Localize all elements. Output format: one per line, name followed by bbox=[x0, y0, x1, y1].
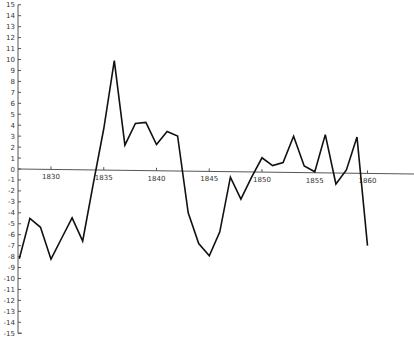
x-tick-label: 1840 bbox=[148, 175, 166, 183]
x-tick-label: 1830 bbox=[42, 173, 60, 181]
y-tick-label: -14 bbox=[4, 319, 16, 327]
y-tick-label: -1 bbox=[8, 176, 15, 184]
line-chart: 1514131211109876543210-1-2-3-4-5-6-7-8-9… bbox=[0, 0, 414, 338]
y-tick-label: 6 bbox=[11, 100, 16, 108]
y-tick-label: 14 bbox=[6, 12, 15, 20]
y-tick-label: -5 bbox=[8, 220, 15, 228]
y-tick-label: -12 bbox=[4, 297, 15, 305]
y-tick-label: -10 bbox=[4, 275, 15, 283]
x-axis: 1830183518401845185018551860 bbox=[18, 166, 414, 185]
y-tick-label: 11 bbox=[6, 45, 15, 53]
y-tick-label: -8 bbox=[8, 253, 15, 261]
y-tick-label: 4 bbox=[11, 122, 16, 130]
y-tick-label: 7 bbox=[11, 89, 15, 97]
y-tick-label: 9 bbox=[11, 67, 15, 75]
y-tick-label: -4 bbox=[8, 209, 16, 217]
y-tick-label: 13 bbox=[6, 23, 15, 31]
y-tick-label: -15 bbox=[4, 330, 15, 338]
y-tick-label: 12 bbox=[6, 34, 15, 42]
y-tick-label: 0 bbox=[11, 166, 15, 174]
x-tick-label: 1845 bbox=[200, 175, 218, 183]
y-tick-label: 15 bbox=[6, 1, 15, 9]
series-line bbox=[19, 61, 367, 260]
data-series bbox=[19, 61, 367, 260]
y-tick-label: -3 bbox=[8, 198, 15, 206]
x-axis-line bbox=[18, 169, 414, 174]
y-tick-label: -7 bbox=[8, 242, 15, 250]
y-tick-label: 10 bbox=[6, 56, 15, 64]
y-tick-label: -2 bbox=[8, 187, 15, 195]
y-tick-label: 1 bbox=[11, 155, 15, 163]
y-tick-label: 5 bbox=[11, 111, 15, 119]
y-tick-label: 8 bbox=[11, 78, 15, 86]
y-tick-label: -9 bbox=[8, 264, 15, 272]
y-tick-label: 2 bbox=[11, 144, 15, 152]
y-tick-label: 3 bbox=[11, 133, 15, 141]
y-tick-label: -13 bbox=[4, 308, 15, 316]
x-tick-label: 1835 bbox=[95, 174, 113, 182]
y-tick-label: -11 bbox=[4, 286, 15, 294]
x-tick-label: 1855 bbox=[306, 177, 324, 185]
y-tick-label: -6 bbox=[8, 231, 16, 239]
x-tick-label: 1850 bbox=[253, 176, 271, 184]
